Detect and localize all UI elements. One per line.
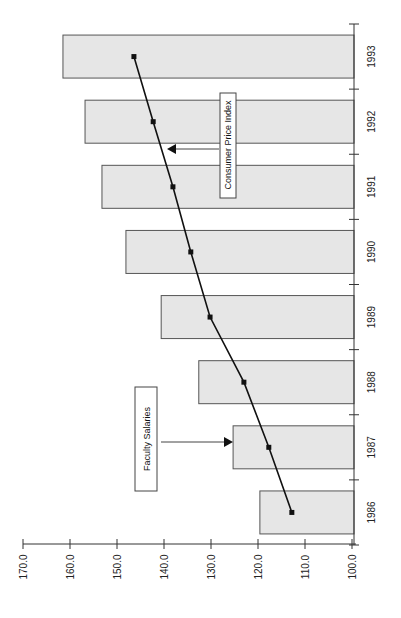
value-tick-label: 130.0 [206,554,217,579]
line-marker [208,315,213,320]
line-marker [289,510,294,515]
line-marker [188,249,193,254]
category-label-1988: 1988 [366,371,377,394]
bar-1990 [126,230,354,273]
value-tick-label: 110.0 [300,554,311,579]
category-label-1989: 1989 [366,306,377,329]
category-label-1986: 1986 [366,501,377,524]
line-marker [151,119,156,124]
bar-series-faculty-salaries [63,35,354,534]
value-tick-label: 170.0 [18,554,29,579]
svg-text:Faculty Salaries: Faculty Salaries [142,406,152,471]
chart: 19861987198819891990199119921993100.0110… [0,0,401,618]
annotations: Faculty SalariesConsumer Price Index [135,93,236,491]
value-tick-label: 100.0 [347,554,358,579]
category-label-1992: 1992 [366,110,377,133]
value-tick-label: 160.0 [65,554,76,579]
line-marker [170,184,175,189]
value-tick-label: 150.0 [112,554,123,579]
bar-1987 [233,426,354,469]
category-label-1990: 1990 [366,240,377,263]
category-label-1987: 1987 [366,436,377,459]
value-tick-label: 120.0 [253,554,264,579]
bar-1988 [199,361,354,404]
bar-1986 [260,491,354,534]
category-label-1993: 1993 [366,45,377,68]
value-tick-label: 140.0 [159,554,170,579]
line-marker [241,380,246,385]
line-marker [266,445,271,450]
bar-1989 [161,296,354,339]
category-label-1991: 1991 [366,175,377,198]
svg-text:Consumer Price Index: Consumer Price Index [223,100,233,190]
bar-1993 [63,35,354,78]
line-marker [131,54,136,59]
